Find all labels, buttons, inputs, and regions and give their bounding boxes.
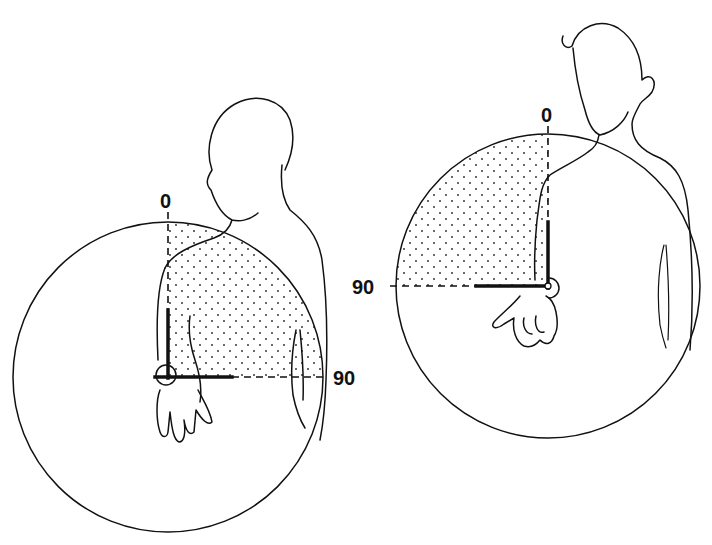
panel-left: 0 90 [13,98,355,532]
angle-label-zero-left: 0 [160,190,171,212]
hand-right [493,296,558,347]
panel-right: 0 90 [352,24,700,438]
angle-label-zero-right: 0 [541,104,552,126]
angle-label-ninety-right: 90 [352,276,374,298]
torso-contour-right [658,245,668,348]
goniometer-pivot-right [545,283,551,289]
angle-label-ninety-left: 90 [333,367,355,389]
range-shaded-region-right [396,134,548,286]
rom-diagram: 0 90 0 90 [0,0,712,545]
hand-left [157,390,212,442]
range-shaded-region-left [168,222,323,377]
